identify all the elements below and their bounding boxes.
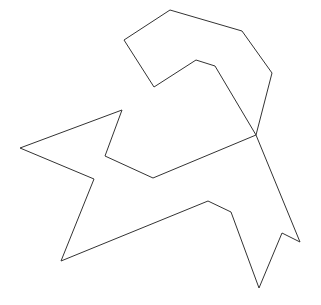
polygon-outline	[20, 10, 300, 288]
polygon-diagram	[0, 0, 321, 305]
